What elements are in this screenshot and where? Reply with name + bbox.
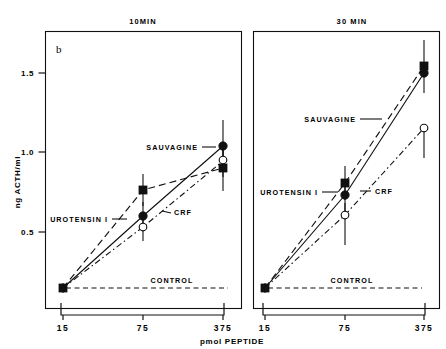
chart-svg: 10MIN 30 MIN b 1.5 1.0 0.5 ng ACTH/ml 15… [0,0,446,349]
x-axis-right: 15 75 375 [259,303,433,333]
y-tick-label-1.5: 1.5 [21,69,34,78]
error-bars-right [265,40,424,293]
x-tick-label-right-375: 375 [415,323,433,333]
marker-sauvagine-left-375 [219,142,227,150]
y-axis-title: ng ACTH/ml [13,156,22,208]
x-axis-left: 15 75 375 [57,303,232,333]
marker-crf-right-75 [341,211,349,219]
marker-crf-left-75 [139,223,147,231]
urotensin-label-right: UROTENSIN I [260,188,318,197]
marker-sauvagine-left-75 [139,212,147,220]
plot-left: CONTROL SAUVAGINE UROTENS [50,120,228,293]
x-tick-label-right-75: 75 [339,323,351,333]
marker-urotensin-left-375 [219,164,227,172]
crf-leader-left [162,211,171,213]
marker-sauvagine-right-75 [341,191,349,199]
marker-crf-left-375 [219,156,227,164]
x-tick-label-left-75: 75 [137,323,149,333]
sauvagine-label-right: SAUVAGINE [304,115,356,124]
x-tick-label-right-15: 15 [259,323,271,333]
x-tick-label-left-375: 375 [214,323,232,333]
y-tick-label-1.0: 1.0 [21,148,34,157]
panel-title-right: 30 MIN [337,17,368,26]
y-axis: 1.5 1.0 0.5 ng ACTH/ml [13,69,46,237]
marker-sauvagine-right-375 [420,69,428,77]
control-label-right: CONTROL [331,276,374,285]
control-label-left: CONTROL [151,276,194,285]
marker-urotensin-right-75 [341,179,349,187]
x-tick-label-left-15: 15 [57,323,69,333]
sauvagine-label-left: SAUVAGINE [146,143,198,152]
panel-title-left: 10MIN [129,17,157,26]
plot-right: CONTROL SAUVAGINE UROTENSIN I [260,40,428,293]
marker-urotensin-left-75 [139,186,147,194]
panel-letter-label: b [56,43,62,55]
y-tick-label-0.5: 0.5 [21,228,34,237]
urotensin-label-left: UROTENSIN I [50,215,108,224]
crf-label-right: CRF [375,187,393,196]
x-axis-title: pmol PEPTIDE [200,337,264,346]
marker-baseline-left [59,284,67,292]
crf-label-left: CRF [174,208,192,217]
marker-baseline-right [261,284,269,292]
figure-container: 10MIN 30 MIN b 1.5 1.0 0.5 ng ACTH/ml 15… [0,0,446,349]
marker-crf-right-375 [420,124,428,132]
